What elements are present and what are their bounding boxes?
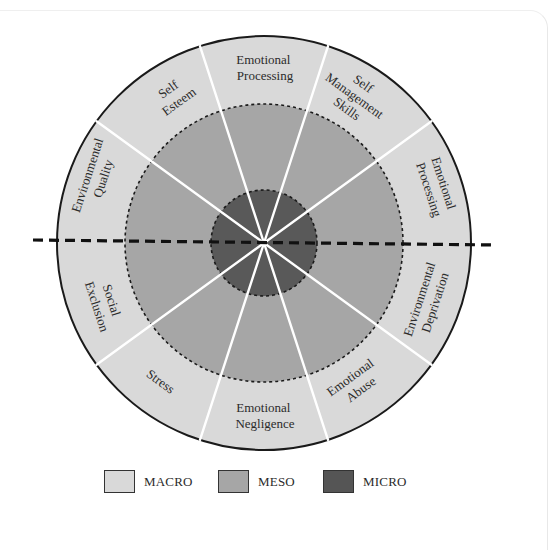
legend-label: MICRO [363, 474, 407, 490]
meso-swatch [218, 470, 249, 493]
legend-item-macro: MACRO [104, 470, 193, 493]
label-top: Emotional Processing [236, 52, 293, 83]
legend-item-micro: MICRO [323, 470, 407, 493]
legend: MACRO MESO MICRO [0, 470, 553, 500]
legend-label: MESO [258, 474, 295, 490]
legend-item-meso: MESO [218, 470, 295, 493]
macro-swatch [104, 470, 135, 493]
legend-label: MACRO [144, 474, 193, 490]
micro-swatch [323, 470, 354, 493]
label-bottom: Emotional Negligence [235, 400, 294, 431]
